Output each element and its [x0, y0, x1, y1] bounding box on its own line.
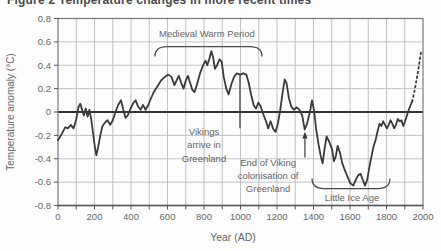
y-tick-label: 0.4: [38, 60, 51, 71]
x-axis-label: Year (AD): [210, 231, 256, 243]
annotation-label-little-ice-age: Little Ice Age: [325, 192, 379, 203]
annotation-label-end-of-viking-colonisation: End of Viking: [240, 157, 296, 168]
annotation-label-medieval-warm-period: Medieval Warm Period: [159, 28, 255, 39]
annotation-label-vikings-arrive-in-greenland: arrive in: [187, 139, 221, 150]
x-tick-label: 800: [196, 211, 212, 222]
x-tick-label: 2000: [412, 211, 433, 222]
annotation-label-end-of-viking-colonisation: colonisation of: [238, 170, 299, 181]
x-tick-label: 1600: [339, 211, 360, 222]
annotation-label-vikings-arrive-in-greenland: Vikings: [189, 126, 220, 137]
annotations: Medieval Warm PeriodVikingsarrive inGree…: [155, 28, 390, 203]
x-tick-label: 600: [160, 211, 176, 222]
figure-2-temperature-chart: Figure 2 Temperature changes in more rec…: [0, 0, 441, 251]
y-tick-label: 0.2: [38, 83, 51, 94]
annotation-label-vikings-arrive-in-greenland: Greenland: [182, 153, 226, 164]
x-tick-label: 200: [87, 211, 103, 222]
x-tick-label: 400: [123, 211, 139, 222]
chart-canvas: 02004006008001000120014001600180020000.8…: [0, 0, 441, 251]
annotation-label-end-of-viking-colonisation: Greenland: [246, 183, 290, 194]
y-axis-label: Temperature anomaly (°C): [5, 53, 16, 170]
temperature-series-dotted: [412, 50, 421, 101]
y-tick-label: -0.8: [35, 200, 51, 211]
y-tick-label: 0.8: [38, 13, 51, 24]
y-tick-label: 0: [46, 106, 51, 117]
temperature-series-solid: [58, 51, 412, 185]
y-tick-label: -0.2: [35, 130, 51, 141]
x-tick-label: 1800: [376, 211, 397, 222]
y-tick-label: -0.4: [35, 153, 51, 164]
y-tick-label: -0.6: [35, 176, 51, 187]
x-tick-label: 0: [55, 211, 60, 222]
x-tick-label: 1400: [303, 211, 324, 222]
x-tick-label: 1000: [230, 211, 251, 222]
y-tick-label: 0.6: [38, 36, 51, 47]
annotation-bracket-medieval-warm-period: [155, 47, 262, 57]
x-tick-label: 1200: [266, 211, 287, 222]
